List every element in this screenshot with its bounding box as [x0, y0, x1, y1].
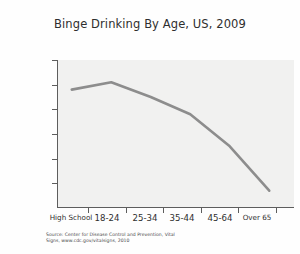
x-axis-label-25-34: 25-34	[133, 213, 158, 223]
x-axis-label-45-64: 45-64	[208, 213, 233, 223]
source-note: Source: Center for Disease Control and P…	[46, 232, 276, 244]
data-series-line	[57, 60, 294, 208]
plot-area: 30% 25% 20% 15% 10% 5% High School 18-24…	[57, 60, 294, 208]
x-axis-label-35-44: 35-44	[170, 213, 195, 223]
chart-figure: Binge Drinking By Age, US, 2009 30% 25% …	[0, 0, 300, 254]
source-line-2: Signs, www.cdc.gov/vitalsigns, 2010	[46, 238, 276, 244]
x-axis-label-18-24: 18-24	[95, 213, 120, 223]
x-axis-label-high-school: High School	[50, 213, 93, 222]
chart-title: Binge Drinking By Age, US, 2009	[0, 17, 300, 31]
x-axis-label-over-65: Over 65	[243, 213, 272, 222]
